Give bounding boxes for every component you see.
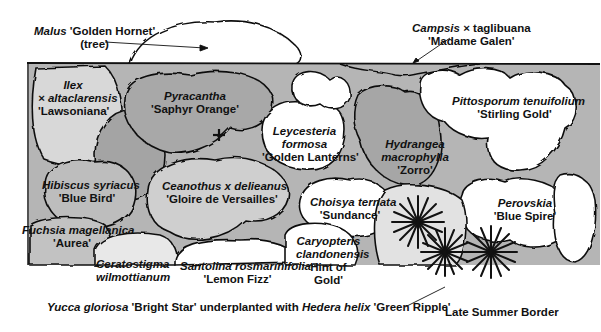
- plant-cultivar: 'Aurea': [53, 237, 91, 249]
- hedera-genus: Hedera helix: [302, 301, 370, 313]
- plant-species: wilmottianum: [96, 271, 170, 283]
- plant-species: × altaclarensis: [38, 92, 118, 104]
- malus-note: (tree): [80, 38, 109, 50]
- yucca-callout-label: Yucca gloriosa 'Bright Star' underplante…: [47, 301, 451, 314]
- yucca-icon-1: [392, 196, 444, 248]
- yucca-icon-3: [465, 226, 517, 278]
- plant-label-ceratostigma: Ceratostigma wilmottianum: [96, 258, 166, 284]
- plant-cultivar: 'Lawsoniana': [38, 105, 109, 117]
- plant-name: Leycesteria: [273, 125, 336, 137]
- plant-name: Santolina rosmarinifolia: [180, 260, 311, 272]
- campsis-genus: Campsis: [412, 22, 460, 34]
- campsis-callout-label: Campsis × taglibuana 'Madame Galen': [412, 22, 531, 48]
- plant-cultivar: 'Golden Lanterns': [262, 151, 359, 163]
- plant-label-caryopteris: Caryopteris clandonensis Hint of Gold': [296, 235, 361, 287]
- plant-cultivar: 'Saphyr Orange': [151, 103, 239, 115]
- plant-name: Choisya ternata: [310, 196, 396, 208]
- plant-cultivar: 'Blue Bird': [59, 192, 116, 204]
- plant-label-hibiscus: Hibiscus syriacus 'Blue Bird': [42, 179, 132, 205]
- plant-name: Hydrangea: [385, 138, 444, 150]
- plant-label-ceanothus: Ceanothus x delieanus 'Gloire de Versail…: [162, 180, 282, 206]
- plant-cultivar-cont: Gold': [314, 274, 343, 286]
- plant-species: formosa: [282, 138, 327, 150]
- yucca-icon-2: [421, 228, 469, 276]
- plant-label-pittosporum: Pittosporum tenuifolium 'Stirling Gold': [452, 95, 577, 121]
- diagram-title: Late Summer Border: [445, 306, 559, 319]
- plant-name: Pyracantha: [164, 90, 226, 102]
- yucca-cultivar: 'Bright Star': [132, 301, 197, 313]
- campsis-species: × taglibuana: [463, 22, 530, 34]
- malus-genus: Malus: [34, 25, 67, 37]
- plant-label-perovskia: Perovskia 'Blue Spire': [490, 197, 560, 223]
- plant-name: Ceratostigma: [96, 258, 170, 270]
- plant-name: Caryopteris: [297, 235, 361, 247]
- plant-name: Hibiscus syriacus: [42, 179, 140, 191]
- plant-name: Pittosporum tenuifolium: [452, 95, 585, 107]
- plant-label-santolina: Santolina rosmarinifolia 'Lemon Fizz': [180, 260, 295, 286]
- plant-name: Fuchsia magellanica: [22, 224, 135, 236]
- campsis-cultivar: 'Madame Galen': [428, 35, 515, 47]
- plant-label-leycesteria: Leycesteria formosa 'Golden Lanterns': [262, 125, 347, 164]
- plant-name: Perovskia: [498, 197, 552, 209]
- plant-cultivar: 'Blue Spire': [494, 210, 556, 222]
- shrub-top-middle: [292, 72, 350, 109]
- plant-label-choisya: Choisya ternata 'Sundance': [310, 196, 390, 222]
- malus-callout-label: Malus 'Golden Hornet' (tree): [34, 25, 155, 51]
- plant-name: Ilex: [63, 79, 82, 91]
- plant-cultivar: 'Lemon Fizz': [203, 273, 271, 285]
- malus-cultivar: 'Golden Hornet': [70, 25, 155, 37]
- plant-cultivar: 'Sundance': [320, 209, 380, 221]
- plant-species: macrophylla: [381, 151, 449, 163]
- plant-name: Ceanothus x delieanus: [162, 180, 287, 192]
- malus-tree-canopy: [130, 21, 301, 64]
- plant-label-pyracantha: Pyracantha 'Saphyr Orange': [150, 90, 240, 116]
- hedera-cultivar: 'Green Ripple': [374, 301, 451, 313]
- plant-cultivar: 'Stirling Gold': [477, 108, 551, 120]
- yucca-joiner: underplanted with: [200, 301, 299, 313]
- plant-species: clandonensis: [296, 248, 370, 260]
- plant-label-ilex: Ilex × altaclarensis 'Lawsoniana': [38, 79, 108, 118]
- plant-cultivar: Hint of: [310, 261, 346, 273]
- plant-cultivar: 'Gloire de Versailles': [166, 193, 278, 205]
- plant-label-hydrangea: Hydrangea macrophylla 'Zorro': [380, 138, 450, 177]
- plant-label-fuchsia: Fuchsia magellanica 'Aurea': [22, 224, 122, 250]
- yucca-genus: Yucca gloriosa: [47, 301, 128, 313]
- plant-cultivar: 'Zorro': [397, 164, 433, 176]
